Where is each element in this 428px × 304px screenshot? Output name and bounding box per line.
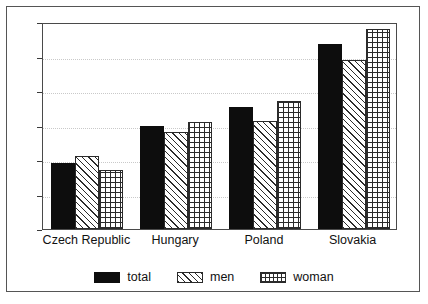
bars-layer [43,24,396,229]
bar-woman-czech-republic [99,170,123,229]
bar-total-czech-republic [51,163,75,229]
bar-men-czech-republic [75,156,99,229]
y-tick-mark [37,230,42,231]
bar-total-slovakia [318,44,342,229]
bar-total-hungary [140,126,164,230]
legend-label-total: total [127,270,151,284]
bar-woman-hungary [188,122,212,229]
legend-label-men: men [210,270,234,284]
legend-item-total[interactable]: total [94,270,151,284]
chart-figure: 0102030405060 Czech RepublicHungaryPolan… [0,0,428,304]
bar-men-slovakia [342,60,366,229]
x-axis-label-hungary: Hungary [152,233,199,247]
plot-area [42,23,397,230]
bar-woman-slovakia [366,29,390,229]
legend-label-woman: woman [293,270,333,284]
x-axis-label-poland: Poland [244,233,283,247]
bar-men-poland [253,121,277,229]
legend-swatch-men [177,272,203,283]
x-axis-labels: Czech RepublicHungaryPolandSlovakia [42,233,397,253]
bar-total-poland [229,107,253,229]
y-axis: 0102030405060 [0,0,42,254]
bar-men-hungary [164,132,188,229]
legend-item-men[interactable]: men [177,270,234,284]
legend-item-woman[interactable]: woman [260,270,333,284]
legend-swatch-woman [260,272,286,283]
chart-legend: totalmenwoman [0,266,428,288]
legend-swatch-total [94,272,120,283]
x-axis-label-slovakia: Slovakia [329,233,376,247]
bar-woman-poland [277,101,301,229]
x-axis-label-czech-republic: Czech Republic [43,233,131,247]
